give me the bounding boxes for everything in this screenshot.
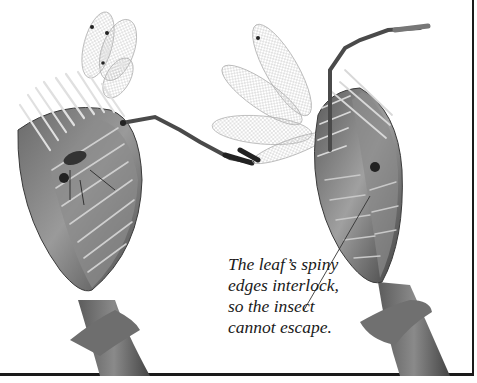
caption-line-2: edges interlock, <box>228 275 348 296</box>
figure-caption: The leaf’s spiny edges interlock, so the… <box>228 254 348 338</box>
right-insect-wings <box>211 17 330 169</box>
left-insect-wings <box>76 9 144 104</box>
figure-panel: The leaf’s spiny edges interlock, so the… <box>0 0 474 376</box>
caption-line-4: cannot escape. <box>228 317 348 338</box>
caption-line-1: The leaf’s spiny <box>228 254 348 275</box>
caption-line-3: so the insect <box>228 296 348 317</box>
left-flytrap <box>18 9 252 376</box>
